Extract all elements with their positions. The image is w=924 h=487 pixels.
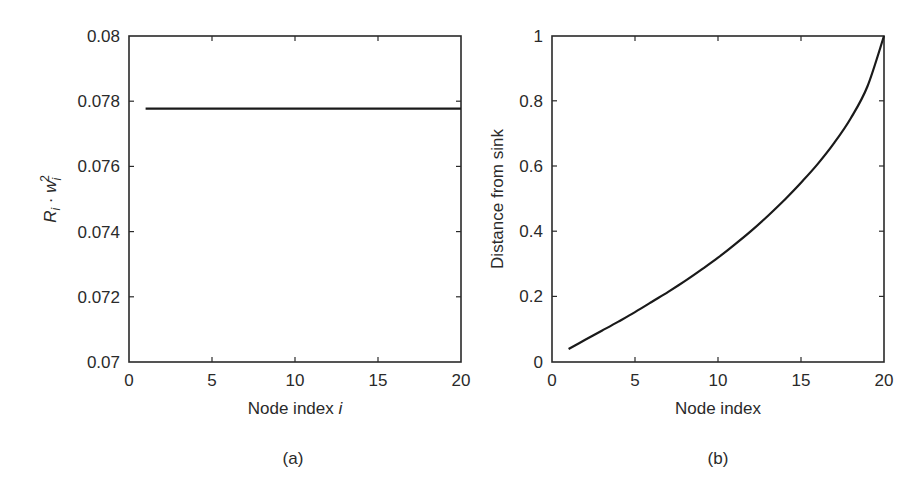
plot-b-data-curve [569, 36, 884, 349]
plot-b-xtick-labels: 0 5 10 15 20 [547, 371, 893, 390]
xtick-label: 20 [452, 371, 471, 390]
ytick-label: 0.07 [87, 353, 120, 372]
panel-a-caption: (a) [283, 449, 304, 468]
xtick-label: 0 [124, 371, 133, 390]
ytick-label: 0.8 [519, 92, 543, 111]
plot-a-frame [129, 36, 461, 362]
ytick-label: 0.08 [87, 27, 120, 46]
panel-b-caption: (b) [708, 449, 729, 468]
xtick-label: 5 [207, 371, 216, 390]
ytick-label: 0 [534, 353, 543, 372]
plot-a-ytick-labels: 0.08 0.078 0.076 0.074 0.072 0.07 [77, 27, 120, 372]
xtick-label: 5 [630, 371, 639, 390]
panel-b: 1 0.8 0.6 0.4 0.2 0 0 5 10 15 20 Node in… [488, 27, 893, 468]
ytick-label: 0.2 [519, 287, 543, 306]
ytick-label: 1 [534, 27, 543, 46]
ytick-label: 0.074 [77, 223, 120, 242]
plot-a-yticks [129, 101, 461, 297]
ytick-label: 0.4 [519, 222, 543, 241]
plot-a-xlabel: Node index i [248, 399, 344, 418]
plot-a-xtick-labels: 0 5 10 15 20 [124, 371, 470, 390]
xtick-label: 15 [792, 371, 811, 390]
ytick-label: 0.078 [77, 92, 120, 111]
plot-b-yticks [552, 101, 884, 297]
ytick-label: 0.072 [77, 288, 120, 307]
xtick-label: 15 [369, 371, 388, 390]
xtick-label: 20 [875, 371, 894, 390]
plot-a-ylabel: Ri · wi2 [38, 175, 64, 223]
plot-b-ytick-labels: 1 0.8 0.6 0.4 0.2 0 [519, 27, 543, 372]
plot-b-ylabel: Distance from sink [488, 129, 507, 269]
plot-b-xticks [635, 36, 801, 362]
panel-a: 0.08 0.078 0.076 0.074 0.072 0.07 0 5 10… [38, 27, 470, 468]
xtick-label: 10 [709, 371, 728, 390]
plot-b-frame [552, 36, 884, 362]
plot-a-xticks [212, 36, 378, 362]
ytick-label: 0.076 [77, 157, 120, 176]
plot-b-xlabel: Node index [675, 399, 762, 418]
xtick-label: 10 [286, 371, 305, 390]
ytick-label: 0.6 [519, 157, 543, 176]
figure: 0.08 0.078 0.076 0.074 0.072 0.07 0 5 10… [0, 0, 924, 487]
xtick-label: 0 [547, 371, 556, 390]
